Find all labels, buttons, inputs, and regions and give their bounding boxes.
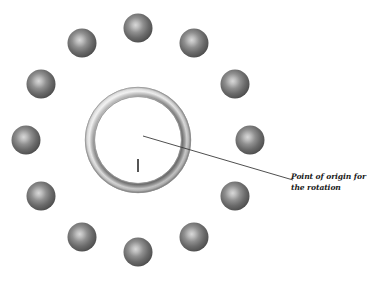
sphere-10 xyxy=(12,126,41,155)
sphere-1 xyxy=(124,14,153,43)
sphere-6 xyxy=(180,223,209,252)
annotation-line-1: Point of origin for xyxy=(291,172,366,181)
sphere-9 xyxy=(27,182,56,211)
annotation-line-2: the rotation xyxy=(291,183,341,192)
diagram-canvas xyxy=(0,0,367,283)
annotation-label: Point of origin for the rotation xyxy=(291,171,367,193)
sphere-5 xyxy=(221,182,250,211)
sphere-7 xyxy=(124,238,153,267)
sphere-3 xyxy=(221,70,250,99)
torus-ring xyxy=(85,87,191,193)
sphere-8 xyxy=(68,223,97,252)
rotation-array-diagram: Point of origin for the rotation xyxy=(0,0,367,283)
sphere-2 xyxy=(180,29,209,58)
sphere-11 xyxy=(27,70,56,99)
sphere-12 xyxy=(68,29,97,58)
sphere-4 xyxy=(236,126,265,155)
